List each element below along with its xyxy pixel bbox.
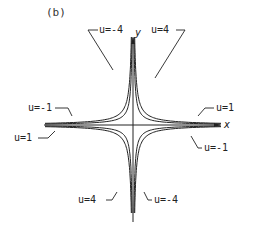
leader-mid-left-lower bbox=[38, 131, 55, 138]
leader-mid-left-upper bbox=[55, 108, 72, 116]
curve-inner-q2 bbox=[45, 37, 132, 124]
leader-top-left bbox=[88, 30, 113, 70]
figure-canvas: (b) x y u=-4 u=4 u=-1 u=1 u=1 u=-1 u=4 u… bbox=[0, 0, 253, 235]
leader-bottom-left bbox=[106, 192, 117, 200]
label-mid-left-upper: u=-1 bbox=[28, 102, 52, 113]
leader-bottom-right bbox=[144, 192, 152, 200]
curve-outer-q2 bbox=[45, 37, 131, 123]
label-mid-left-lower: u=1 bbox=[14, 132, 32, 143]
leader-top-right bbox=[155, 30, 185, 78]
leader-mid-right-upper bbox=[198, 108, 214, 116]
label-mid-right-lower: u=-1 bbox=[204, 142, 228, 153]
panel-label: (b) bbox=[46, 6, 66, 19]
label-top-right: u=4 bbox=[151, 24, 169, 35]
curve-inner-q1 bbox=[134, 37, 221, 124]
label-mid-right-upper: u=1 bbox=[216, 102, 234, 113]
leader-mid-right-lower bbox=[191, 136, 202, 148]
label-top-left: u=-4 bbox=[99, 24, 123, 35]
hyperbola-diagram: (b) x y u=-4 u=4 u=-1 u=1 u=1 u=-1 u=4 u… bbox=[0, 0, 253, 235]
x-axis-label: x bbox=[223, 119, 230, 130]
label-bottom-left: u=4 bbox=[78, 194, 96, 205]
y-axis-label: y bbox=[134, 27, 141, 38]
curve-outer-q1 bbox=[135, 37, 221, 123]
label-bottom-right: u=-4 bbox=[154, 194, 178, 205]
